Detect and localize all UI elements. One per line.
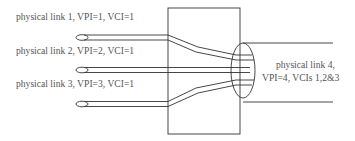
label-link-3: physical link 3, VPI=3, VCI=1 [16, 78, 134, 89]
cable-end-icon [76, 67, 88, 73]
label-link-2: physical link 2, VPI=2, VCI=1 [16, 45, 134, 56]
cable-end-icon [76, 101, 88, 107]
switch-box [168, 8, 240, 134]
cable-end-icon [76, 35, 88, 41]
label-link-4-line2: VPI=4, VCIs 1,2&3 [262, 72, 339, 83]
label-link-1: physical link 1, VPI=1, VCI=1 [16, 11, 134, 22]
multiplexed-channels [236, 55, 254, 85]
multiplexer-ellipse [231, 43, 255, 98]
label-link-4-line1: physical link 4, [276, 59, 335, 70]
input-cable-link-2 [76, 67, 250, 73]
atm-multiplex-diagram: physical link 1, VPI=1, VCI=1 physical l… [0, 0, 355, 141]
